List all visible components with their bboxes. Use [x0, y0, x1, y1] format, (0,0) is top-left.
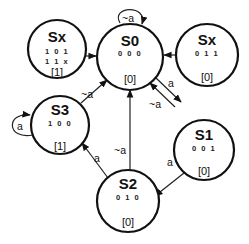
state-code: 1 0 1 — [45, 47, 69, 56]
label-s0-to-s1: a — [168, 77, 174, 89]
label-s3-self: a — [17, 120, 23, 132]
state-output: [0] — [198, 165, 210, 177]
label-s0-self: ~a — [122, 12, 134, 24]
state-output: [0] — [201, 71, 213, 83]
state-name: S0 — [121, 32, 139, 49]
state-code: 0 0 0 — [118, 49, 142, 58]
state-sx-left: Sx 1 0 1 1 1 x [1] — [28, 20, 86, 78]
state-output: [1] — [54, 140, 66, 152]
state-name: S1 — [195, 126, 213, 143]
state-output: [1] — [51, 66, 63, 78]
label-s2-to-s0: ~a — [114, 144, 126, 156]
edge-s1-to-s2 — [155, 173, 184, 196]
state-name: S2 — [119, 175, 137, 192]
state-name: Sx — [198, 31, 217, 48]
state-diagram: ~a a ~a a ~a a ~a a Sx 1 0 1 1 1 x [1] S… — [0, 0, 249, 244]
state-code: 0 1 0 — [116, 193, 140, 202]
label-s3-to-s0: ~a — [81, 88, 93, 100]
state-sx-right: Sx 0 1 1 [0] — [176, 24, 238, 86]
label-s1-to-s2: a — [167, 156, 173, 168]
state-name: Sx — [48, 28, 67, 45]
state-code: 0 0 1 — [192, 144, 216, 153]
state-code: 1 0 0 — [48, 119, 72, 128]
state-output: [0] — [124, 73, 136, 85]
state-code: 1 1 x — [45, 57, 69, 66]
state-s2: S2 0 1 0 [0] — [97, 170, 159, 232]
state-name: S3 — [51, 101, 69, 118]
state-code: 0 1 1 — [195, 49, 219, 58]
state-s1: S1 0 0 1 [0] — [174, 120, 234, 180]
label-s1-to-s0: ~a — [149, 98, 161, 110]
state-s3: S3 1 0 0 [1] — [31, 96, 89, 154]
label-s2-to-s3: a — [94, 152, 100, 164]
state-s0: S0 0 0 0 [0] — [97, 24, 163, 90]
state-output: [0] — [122, 216, 134, 228]
